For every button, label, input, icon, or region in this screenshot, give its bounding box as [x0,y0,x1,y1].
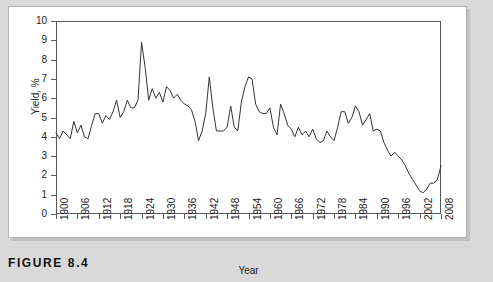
y-tick-label: 6 [21,93,47,103]
y-tick-label: 9 [21,35,47,45]
series-polyline [56,42,441,193]
x-tick-mark [249,214,250,219]
y-tick-label: 8 [21,55,47,65]
x-tick-mark [313,214,314,219]
x-tick-mark [398,214,399,219]
yield-line-series [56,21,441,214]
x-axis-label: Year [56,265,441,276]
y-tick-label: 10 [21,16,47,26]
x-tick-mark [56,214,57,219]
x-tick-mark [184,214,185,219]
x-tick-mark [334,214,335,219]
x-tick-mark [377,214,378,219]
x-tick-mark [120,214,121,219]
x-tick-mark [355,214,356,219]
x-tick-mark [227,214,228,219]
x-tick-mark [291,214,292,219]
figure-panel: Yield, % 012345678910 190019061912191819… [8,6,467,238]
x-tick-mark [206,214,207,219]
x-tick-mark [99,214,100,219]
x-tick-mark [77,214,78,219]
x-tick-mark [142,214,143,219]
y-tick-label: 1 [21,190,47,200]
y-tick-label: 4 [21,132,47,142]
x-tick-mark [163,214,164,219]
x-tick-mark [420,214,421,219]
x-tick-label: 2008 [445,198,455,220]
y-tick-label: 7 [21,74,47,84]
y-tick-label: 5 [21,113,47,123]
y-tick-label: 0 [21,209,47,219]
y-tick-label: 2 [21,170,47,180]
plot-area: Yield, % 012345678910 190019061912191819… [9,7,468,239]
x-tick-mark [270,214,271,219]
x-tick-mark [441,214,442,219]
y-tick-label: 3 [21,151,47,161]
figure-root: Yield, % 012345678910 190019061912191819… [0,0,493,282]
figure-caption: FIGURE 8.4 [8,256,89,270]
